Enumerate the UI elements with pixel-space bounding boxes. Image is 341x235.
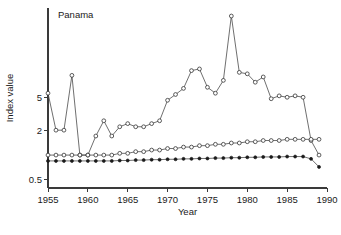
- data-point: [54, 153, 58, 157]
- data-point: [86, 159, 89, 162]
- x-axis-title: Year: [178, 206, 197, 217]
- data-point: [118, 159, 121, 162]
- data-point: [253, 140, 257, 144]
- data-point: [190, 157, 193, 160]
- data-point: [102, 159, 105, 162]
- data-point: [237, 70, 241, 74]
- panel-title: Panama: [58, 9, 94, 20]
- data-point: [246, 156, 249, 159]
- chart-figure: 19551960196519701975198019851990Year520.…: [0, 0, 341, 235]
- data-point: [94, 159, 97, 162]
- data-point: [86, 153, 90, 157]
- data-point: [134, 159, 137, 162]
- data-point: [94, 134, 98, 138]
- data-point: [229, 141, 233, 145]
- x-tick-label: 1980: [237, 194, 258, 205]
- data-point: [277, 139, 281, 143]
- data-point: [102, 119, 106, 123]
- data-point: [46, 153, 50, 157]
- data-point: [142, 125, 146, 129]
- data-point: [222, 157, 225, 160]
- data-point: [142, 159, 145, 162]
- data-point: [158, 148, 162, 152]
- data-point: [158, 158, 161, 161]
- data-point: [309, 137, 313, 141]
- data-point: [134, 125, 138, 129]
- data-point: [126, 159, 129, 162]
- data-point: [206, 144, 210, 148]
- data-point: [261, 139, 265, 143]
- y-tick-label: 2: [37, 125, 42, 136]
- data-point: [174, 147, 178, 151]
- data-point: [206, 85, 210, 89]
- series-upper-series: [46, 14, 321, 157]
- data-point: [70, 153, 74, 157]
- data-point: [166, 98, 170, 102]
- data-point: [190, 145, 194, 149]
- data-point: [302, 155, 305, 158]
- data-point: [174, 93, 178, 97]
- data-point: [182, 145, 186, 149]
- data-point: [317, 153, 321, 157]
- data-point: [254, 156, 257, 159]
- x-tick-label: 1965: [117, 194, 138, 205]
- data-point: [102, 153, 106, 157]
- data-point: [253, 80, 257, 84]
- data-point: [277, 94, 281, 98]
- data-point: [245, 72, 249, 76]
- data-point: [285, 95, 289, 99]
- data-point: [269, 97, 273, 101]
- data-point: [166, 147, 170, 151]
- data-point: [70, 159, 73, 162]
- data-point: [198, 144, 202, 148]
- data-point: [46, 91, 50, 95]
- x-tick-label: 1975: [197, 194, 218, 205]
- y-tick-label: 5: [37, 92, 42, 103]
- data-point: [62, 159, 65, 162]
- data-point: [174, 158, 177, 161]
- series-path: [48, 16, 319, 155]
- x-tick-label: 1955: [37, 194, 58, 205]
- data-point: [78, 153, 82, 157]
- data-point: [230, 156, 233, 159]
- y-tick-label: 0.5: [29, 174, 42, 185]
- data-point: [206, 157, 209, 160]
- data-point: [214, 91, 218, 95]
- data-point: [126, 122, 130, 126]
- data-point: [54, 159, 57, 162]
- data-point: [158, 119, 162, 123]
- data-point: [110, 159, 113, 162]
- data-point: [318, 165, 321, 168]
- data-point: [62, 128, 66, 132]
- data-point: [182, 157, 185, 160]
- data-point: [110, 153, 114, 157]
- data-point: [70, 73, 74, 77]
- series-middle-series: [46, 137, 321, 157]
- data-point: [262, 155, 265, 158]
- data-point: [293, 137, 297, 141]
- data-point: [54, 128, 58, 132]
- data-point: [118, 151, 122, 155]
- data-point: [150, 122, 154, 126]
- x-tick-label: 1970: [157, 194, 178, 205]
- data-point: [270, 155, 273, 158]
- data-point: [198, 157, 201, 160]
- data-point: [294, 155, 297, 158]
- data-point: [221, 142, 225, 146]
- data-point: [94, 153, 98, 157]
- data-point: [142, 150, 146, 154]
- data-point: [166, 158, 169, 161]
- data-point: [62, 153, 66, 157]
- data-point: [285, 137, 289, 141]
- data-point: [150, 148, 154, 152]
- x-tick-label: 1990: [316, 194, 337, 205]
- data-point: [182, 87, 186, 91]
- data-point: [134, 150, 138, 154]
- data-point: [317, 137, 321, 141]
- data-point: [237, 141, 241, 145]
- data-point: [118, 125, 122, 129]
- data-point: [301, 137, 305, 141]
- data-point: [47, 159, 50, 162]
- data-point: [261, 75, 265, 79]
- data-point: [301, 95, 305, 99]
